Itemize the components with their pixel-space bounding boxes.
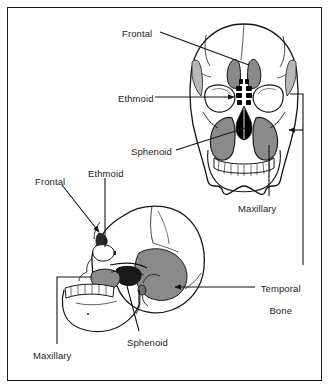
label-anterior-ethmoid: Ethmoid <box>118 93 154 104</box>
label-anterior-frontal: Frontal <box>122 28 152 39</box>
label-lateral-frontal: Frontal <box>35 176 65 187</box>
anterior-orbit-right <box>253 85 283 112</box>
leader-lateral-frontal <box>62 185 99 232</box>
label-anterior-sphenoid: Sphenoid <box>131 146 172 157</box>
label-lateral-sphenoid: Sphenoid <box>127 337 168 348</box>
anterior-orbit-left <box>205 85 235 112</box>
label-temporal-bone: Temporal Bone <box>252 272 304 316</box>
label-anterior-maxillary: Maxillary <box>238 203 276 214</box>
lateral-skull-view <box>62 206 204 332</box>
skull-diagram <box>0 0 331 390</box>
label-lateral-ethmoid: Ethmoid <box>88 168 124 179</box>
label-temporal-bone-line2: Bone <box>269 305 292 316</box>
lateral-upper-teeth <box>65 284 114 298</box>
label-temporal-bone-line1: Temporal <box>261 283 301 294</box>
label-lateral-maxillary: Maxillary <box>33 350 71 361</box>
lateral-orbit <box>93 245 114 262</box>
